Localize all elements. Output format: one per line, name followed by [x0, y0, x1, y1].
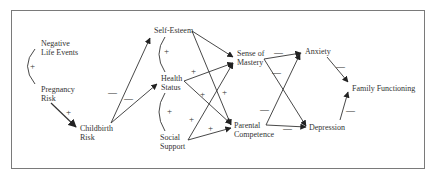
node-label-line: Mastery	[237, 58, 264, 67]
node-label-line: Health	[161, 74, 182, 83]
sign-plus: +	[222, 88, 227, 97]
edge-cr-hs	[111, 84, 157, 123]
node-label-line: Negative	[41, 39, 78, 48]
node-parental-competence: Parental Competence	[234, 121, 274, 139]
sign-minus: —	[124, 94, 133, 103]
sign-plus: +	[66, 108, 71, 117]
node-label-line: Childbirth	[80, 124, 113, 133]
node-health-status: Health Status	[161, 74, 182, 92]
node-label-line: Parental	[234, 121, 274, 130]
sign-minus: —	[272, 68, 281, 77]
node-label-line: Support	[160, 142, 185, 151]
edge-pc-anx	[266, 54, 300, 125]
edge-se-pc	[192, 31, 231, 125]
node-negative-life-events: Negative Life Events	[41, 39, 78, 57]
edge-cr-se	[111, 38, 150, 123]
node-sense-of-mastery: Sense of Mastery	[237, 49, 264, 67]
node-label-line: Pregnancy	[41, 85, 75, 94]
node-label-line: Risk	[41, 94, 75, 103]
path-diagram: Negative Life Events Pregnancy Risk Chil…	[0, 0, 436, 180]
sign-minus: —	[260, 105, 269, 114]
node-family-functioning: Family Functioning	[352, 84, 415, 93]
edge-hs-ss-arc	[159, 93, 165, 131]
node-self-esteem: Self-Esteem	[154, 26, 193, 35]
node-childbirth-risk: Childbirth Risk	[80, 124, 113, 142]
sign-plus: +	[191, 67, 196, 76]
node-label-line: Status	[161, 83, 182, 92]
node-social-support: Social Support	[160, 133, 185, 151]
sign-plus: +	[164, 47, 169, 56]
node-label-line: Risk	[80, 133, 113, 142]
sign-minus: —	[336, 62, 345, 71]
sign-plus: +	[189, 115, 194, 124]
node-label-line: Self-Esteem	[154, 26, 193, 35]
edge-se-som	[192, 31, 233, 57]
node-depression: Depression	[309, 123, 345, 132]
sign-plus: +	[208, 124, 213, 133]
node-label-line: Competence	[234, 130, 274, 139]
edge-pr-cr	[51, 103, 76, 127]
sign-minus: —	[283, 124, 292, 133]
sign-minus: —	[346, 106, 355, 115]
sign-plus: +	[167, 107, 172, 116]
sign-plus: +	[200, 90, 205, 99]
node-label-line: Social	[160, 133, 185, 142]
node-anxiety: Anxiety	[305, 47, 331, 56]
sign-minus: —	[274, 48, 283, 57]
node-label-line: Depression	[309, 123, 345, 132]
node-pregnancy-risk: Pregnancy Risk	[41, 85, 75, 103]
node-label-line: Family Functioning	[352, 84, 415, 93]
sign-plus: +	[30, 62, 35, 71]
node-label-line: Anxiety	[305, 47, 331, 56]
node-label-line: Life Events	[41, 48, 78, 57]
node-label-line: Sense of	[237, 49, 264, 58]
sign-minus: —	[108, 88, 117, 97]
